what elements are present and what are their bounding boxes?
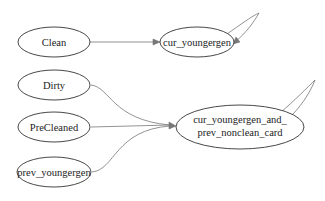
node-cur-youngergen[interactable]: cur_youngergen <box>160 27 234 57</box>
node-prev-youngergen[interactable]: prev_youngergen <box>17 157 91 187</box>
edge-precleaned-to-combined <box>91 125 170 127</box>
node-precleaned-label: PreCleaned <box>30 122 79 133</box>
node-combined-label-line1: cur_youngergen_and_ <box>193 114 287 125</box>
edge-prev-youngergen-to-combined <box>92 126 170 172</box>
node-cur-youngergen-label: cur_youngergen <box>163 37 232 48</box>
edge-dirty-to-combined <box>91 85 176 129</box>
node-combined-label-line2: prev_nonclean_card <box>197 127 283 138</box>
state-diagram: Clean cur_youngergen Dirty PreCleaned pr… <box>0 0 325 201</box>
edge-clean-to-cur-youngergen <box>90 39 160 45</box>
node-prev-youngergen-label: prev_youngergen <box>17 167 91 178</box>
node-dirty[interactable]: Dirty <box>18 70 90 100</box>
node-precleaned[interactable]: PreCleaned <box>18 112 90 142</box>
node-cur-youngergen-and-prev-nonclean-card[interactable]: cur_youngergen_and_ prev_nonclean_card <box>176 105 304 149</box>
node-clean-label: Clean <box>42 37 67 48</box>
node-dirty-label: Dirty <box>43 80 66 91</box>
node-clean[interactable]: Clean <box>18 27 90 57</box>
